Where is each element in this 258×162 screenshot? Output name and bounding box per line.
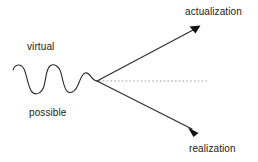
label-realization: realization [189, 143, 236, 154]
label-possible: possible [29, 107, 67, 118]
label-actualization: actualization [185, 6, 242, 17]
wavy-line-path [13, 65, 97, 94]
diagram-canvas: virtual possible actualization realizati… [0, 0, 258, 162]
arrow-to-actualization-head [190, 26, 201, 34]
arrow-to-realization-head [188, 128, 199, 138]
diagram-graphics [0, 0, 258, 162]
label-virtual: virtual [27, 41, 54, 52]
arrow-to-realization-line [97, 81, 192, 129]
arrow-to-actualization-line [97, 30, 194, 82]
